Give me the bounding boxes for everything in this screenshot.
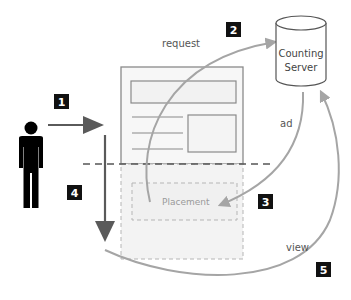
svg-text:2: 2 [230,24,238,37]
step-badge-2: 2 [226,22,241,37]
placement-label: Placement [162,197,210,207]
label-view: view [286,242,309,253]
ad-counting-diagram: Placement Counting Server request ad vie… [0,0,351,300]
label-request: request [162,38,200,49]
arrowhead [83,116,104,134]
step-badge-3: 3 [258,194,273,209]
step-badge-5: 5 [316,262,331,277]
svg-text:3: 3 [262,196,270,209]
svg-text:5: 5 [320,264,328,277]
step-badge-4: 4 [67,185,82,200]
web-page-icon: Placement [121,67,243,259]
svg-text:4: 4 [71,187,79,200]
person-icon [19,122,43,209]
database-cylinder-icon: Counting Server [276,16,326,86]
arrowhead [95,221,115,242]
server-label-line2: Server [285,62,319,73]
page-image-block [188,115,236,152]
svg-text:1: 1 [58,96,66,109]
label-ad: ad [280,118,292,129]
server-label-line1: Counting [278,48,323,59]
step-badge-1: 1 [54,94,69,109]
